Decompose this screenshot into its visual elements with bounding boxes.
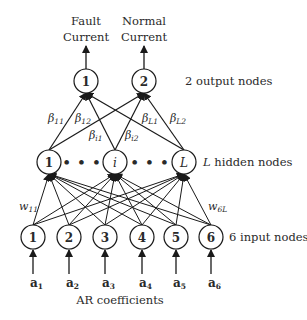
coefficient-a1: a1 [30, 276, 43, 291]
weight-label-w11: w11 [19, 200, 38, 214]
svg-text:w6L: w6L [208, 200, 227, 214]
svg-text:2: 2 [140, 75, 148, 89]
ar-coefficients-caption: AR coefficients [75, 293, 164, 307]
beta-label-11: β11 [47, 112, 64, 126]
output-label-line2: Current [121, 30, 167, 44]
neural-network-diagram: Fault Current Normal Current β11 β12 βi1… [0, 0, 307, 320]
input-node-4: 4 [130, 225, 154, 249]
output-node-1: 1 [74, 69, 98, 93]
hidden-output-connections [49, 93, 184, 150]
svg-text:βL1: βL1 [141, 112, 158, 126]
hidden-layer-label: L hidden nodes [202, 155, 292, 169]
coefficient-a5: a5 [173, 276, 186, 291]
svg-text:β12: β12 [74, 112, 91, 126]
svg-text:1: 1 [45, 156, 53, 170]
output-layer-label: 2 output nodes [185, 74, 272, 88]
coefficient-a2: a2 [66, 276, 79, 291]
input-node-2: 2 [57, 225, 81, 249]
output-node-2: 2 [132, 69, 156, 93]
input-layer-label: 6 input nodes [229, 230, 307, 244]
beta-label-12: β12 [74, 112, 91, 126]
hidden-ellipsis-right: • • • [131, 155, 170, 170]
svg-text:1: 1 [82, 75, 90, 89]
beta-label-L2: βL2 [169, 112, 186, 126]
input-hidden-connections [33, 174, 211, 225]
coefficient-a4: a4 [139, 276, 152, 291]
svg-text:β11: β11 [47, 112, 64, 126]
coefficient-a3: a3 [102, 276, 115, 291]
output-label-line2: Current [63, 30, 109, 44]
svg-text:βi2: βi2 [124, 129, 139, 143]
input-node-1: 1 [21, 225, 45, 249]
beta-label-i1: βi1 [88, 129, 103, 143]
svg-text:w11: w11 [19, 200, 38, 214]
svg-text:3: 3 [101, 231, 109, 245]
svg-text:1: 1 [29, 231, 37, 245]
beta-label-i2: βi2 [124, 129, 139, 143]
input-node-5: 5 [164, 225, 188, 249]
input-arrows [33, 250, 211, 274]
hidden-node-i: i [103, 150, 127, 174]
svg-text:5: 5 [172, 231, 180, 245]
svg-text:βi1: βi1 [88, 129, 103, 143]
svg-text:βL2: βL2 [169, 112, 186, 126]
weight-label-w6L: w6L [208, 200, 227, 214]
hidden-node-1: 1 [37, 150, 61, 174]
beta-label-L1: βL1 [141, 112, 158, 126]
input-node-6: 6 [199, 225, 223, 249]
output-label-fault: Fault Current [63, 14, 109, 44]
input-node-3: 3 [93, 225, 117, 249]
hidden-ellipsis-left: • • • [63, 155, 102, 170]
hidden-node-L: L [172, 150, 196, 174]
svg-text:4: 4 [138, 231, 146, 245]
svg-text:i: i [113, 156, 117, 170]
svg-text:6: 6 [207, 231, 215, 245]
svg-text:2: 2 [65, 231, 73, 245]
output-label-line1: Fault [71, 14, 101, 28]
output-label-normal: Normal Current [121, 14, 167, 44]
svg-text:L: L [179, 156, 188, 170]
output-label-line1: Normal [122, 14, 166, 28]
coefficient-a6: a6 [208, 276, 221, 291]
